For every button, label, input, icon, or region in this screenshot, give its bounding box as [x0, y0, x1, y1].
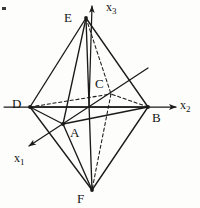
geometry-figure: EDBACF x3x2x1 — [0, 0, 200, 208]
vertex-dot-A — [61, 122, 65, 126]
edge-E-A — [63, 18, 86, 124]
axis-label-x2: x2 — [180, 99, 191, 114]
vertex-dot-F — [90, 188, 94, 192]
vertex-label-C: C — [95, 77, 104, 90]
edge-E-B — [86, 18, 148, 107]
axis-label-subscript-x3: 3 — [112, 6, 117, 16]
vertex-dot-B — [146, 105, 150, 109]
scan-mark — [2, 7, 6, 10]
vertex-label-D: D — [12, 97, 21, 110]
vertex-label-E: E — [64, 11, 72, 24]
edge-C-B — [111, 94, 148, 107]
edge-D-A — [30, 107, 63, 124]
axis-label-subscript-x2: 2 — [186, 104, 191, 114]
vertex-label-F: F — [77, 192, 84, 205]
axis-label-x1: x1 — [14, 152, 25, 167]
axis-label-subscript-x1: 1 — [20, 157, 25, 167]
axis-label-x3: x3 — [106, 1, 117, 16]
vertex-label-A: A — [70, 126, 79, 139]
vertex-dot-D — [28, 105, 32, 109]
axis-x3 — [89, 6, 92, 107]
edge-E-D — [30, 18, 86, 107]
edges-layer — [30, 18, 148, 190]
figure-canvas — [0, 0, 200, 208]
vertex-label-B: B — [152, 111, 161, 124]
vertex-dot-E — [84, 16, 88, 20]
